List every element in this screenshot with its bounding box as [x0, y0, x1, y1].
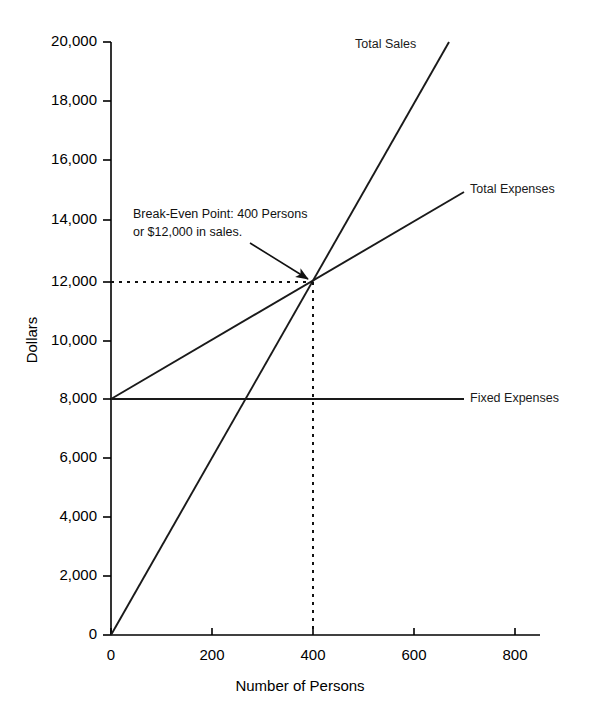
- x-tick-label: 0: [107, 646, 115, 663]
- series-label-total-sales: Total Sales: [355, 37, 416, 51]
- y-tick-label: 10,000: [51, 331, 97, 348]
- y-tick-label: 0: [89, 625, 97, 642]
- series-lines: [111, 42, 464, 635]
- y-tick-label: 2,000: [59, 566, 97, 583]
- x-axis-title: Number of Persons: [235, 677, 364, 694]
- x-tick-label: 200: [199, 646, 224, 663]
- y-tick-label: 12,000: [51, 272, 97, 289]
- y-tick-label: 14,000: [51, 210, 97, 227]
- break-even-annotation-arrow: [250, 243, 308, 279]
- break-even-annotation: Break-Even Point: 400 Persons or $12,000…: [133, 207, 308, 279]
- chart-canvas: 20,000 18,000 16,000 14,000 12,000 10,00…: [0, 0, 593, 726]
- series-label-total-expenses: Total Expenses: [470, 182, 555, 196]
- y-axis-tick-labels: 20,000 18,000 16,000 14,000 12,000 10,00…: [51, 32, 97, 642]
- break-even-annotation-line2: or $12,000 in sales.: [133, 225, 242, 239]
- x-tick-label: 600: [401, 646, 426, 663]
- y-axis-title: Dollars: [23, 317, 40, 364]
- y-tick-label: 8,000: [59, 389, 97, 406]
- y-axis-ticks: [103, 42, 111, 635]
- y-tick-label: 20,000: [51, 32, 97, 49]
- series-line-total-sales: [111, 42, 449, 635]
- x-tick-label: 400: [300, 646, 325, 663]
- x-axis-ticks: [111, 628, 515, 635]
- y-tick-label: 18,000: [51, 91, 97, 108]
- axes: [111, 42, 540, 635]
- series-line-total-expenses: [111, 192, 464, 399]
- series-label-fixed-expenses: Fixed Expenses: [470, 391, 559, 405]
- x-tick-label: 800: [502, 646, 527, 663]
- break-even-annotation-line1: Break-Even Point: 400 Persons: [133, 207, 307, 221]
- break-even-chart: 20,000 18,000 16,000 14,000 12,000 10,00…: [0, 0, 593, 726]
- y-tick-label: 16,000: [51, 150, 97, 167]
- y-tick-label: 4,000: [59, 507, 97, 524]
- x-axis-tick-labels: 0 200 400 600 800: [107, 646, 528, 663]
- y-tick-label: 6,000: [59, 448, 97, 465]
